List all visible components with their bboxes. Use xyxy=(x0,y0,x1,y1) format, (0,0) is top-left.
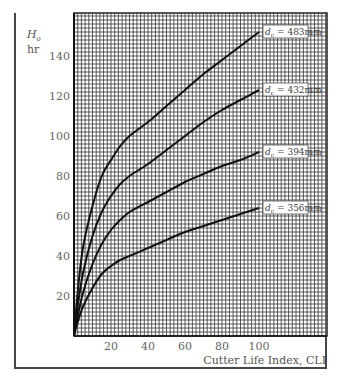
x-tick-label: 60 xyxy=(178,340,192,353)
x-tick-label: 40 xyxy=(141,340,155,353)
y-axis-label-main: H xyxy=(26,28,37,41)
series-label: dc = 394mm xyxy=(265,147,322,158)
series-label: dc = 483mm xyxy=(265,27,322,38)
y-axis-ticks: 20406080100120140 xyxy=(49,50,70,303)
y-tick-label: 100 xyxy=(49,130,70,143)
x-tick-label: 20 xyxy=(104,340,118,353)
y-tick-label: 80 xyxy=(56,170,70,183)
x-axis-label: Cutter Life Index, CLI xyxy=(203,354,326,367)
y-tick-label: 60 xyxy=(56,210,70,223)
y-tick-label: 40 xyxy=(56,250,70,263)
y-axis-label-unit: hr xyxy=(27,43,40,56)
chart: dc = 483mmdc = 432mmdc = 394mmdc = 356mm… xyxy=(0,0,340,380)
series-label: dc = 356mm xyxy=(265,203,322,214)
series-label: dc = 432mm xyxy=(265,85,322,96)
x-tick-label: 100 xyxy=(249,340,270,353)
y-tick-label: 20 xyxy=(56,290,70,303)
x-tick-label: 80 xyxy=(215,340,229,353)
x-axis-ticks: 20406080100 xyxy=(104,340,270,353)
y-axis-label-symbol: Ho xyxy=(26,28,41,43)
y-tick-label: 120 xyxy=(49,90,70,103)
y-axis-label-subscript: o xyxy=(37,35,41,43)
y-tick-label: 140 xyxy=(49,50,70,63)
